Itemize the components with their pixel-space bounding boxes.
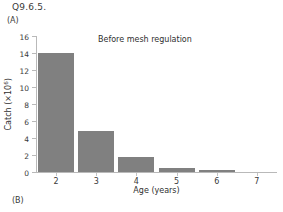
x-axis-line — [36, 172, 277, 173]
bars-group — [36, 36, 277, 172]
y-tick-label: 2 — [24, 151, 29, 160]
y-tick-label: 14 — [19, 49, 29, 58]
y-tick-label: 6 — [24, 117, 29, 126]
question-label: Q9.6.5. — [12, 2, 46, 12]
y-tick-label: 10 — [19, 83, 29, 92]
y-tick-label: 4 — [24, 134, 29, 143]
x-tick-label: 4 — [134, 177, 139, 186]
x-axis-title: Age (years) — [36, 186, 277, 195]
figure-panel-a: Catch (×106) 0246810121416 234567 Before… — [0, 26, 283, 191]
x-tick — [56, 173, 57, 176]
x-tick — [96, 173, 97, 176]
bar — [159, 168, 195, 172]
x-tick — [257, 173, 258, 176]
panel-a-label: (A) — [7, 16, 19, 25]
y-axis-title-exponent: 6 — [3, 81, 9, 85]
panel-b-label: (B) — [12, 196, 24, 205]
x-tick-label: 5 — [174, 177, 179, 186]
x-tick — [136, 173, 137, 176]
x-tick-label: 7 — [254, 177, 259, 186]
x-tick — [217, 173, 218, 176]
y-tick-label: 0 — [24, 168, 29, 177]
y-tick-label: 12 — [19, 66, 29, 75]
y-tick-label: 8 — [24, 100, 29, 109]
x-tick-label: 6 — [214, 177, 219, 186]
bar — [38, 53, 74, 172]
y-tick-label: 16 — [19, 32, 29, 41]
bar — [199, 170, 235, 172]
x-tick-label: 2 — [54, 177, 59, 186]
y-axis-title-text: Catch (×10 — [4, 85, 13, 131]
bar — [118, 157, 154, 172]
y-axis-title-suffix: ) — [4, 78, 13, 81]
chart-annotation: Before mesh regulation — [98, 35, 192, 44]
y-tick: 0 — [32, 172, 37, 173]
bar — [78, 131, 114, 172]
x-tick — [177, 173, 178, 176]
x-tick-label: 3 — [94, 177, 99, 186]
y-axis-title: Catch (×106) — [2, 36, 14, 173]
